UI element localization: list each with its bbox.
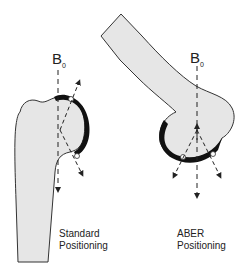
b0-label-aber: B0 [190, 49, 204, 68]
b0-label-standard: B0 [52, 50, 66, 69]
labrum-marker [211, 152, 216, 157]
caption-aber: ABER Positioning [177, 228, 226, 252]
diagram-canvas: B0 B0 Standard Positioning ABER Position… [0, 0, 247, 274]
aber-humerus [101, 14, 234, 196]
labrum-marker [75, 154, 80, 159]
caption-standard: Standard Positioning [59, 228, 108, 252]
